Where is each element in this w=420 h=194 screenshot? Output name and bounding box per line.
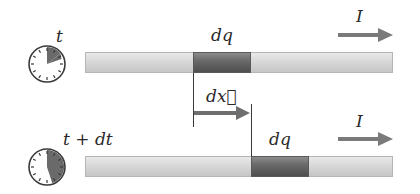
time-label-t: t: [56, 28, 63, 45]
charge-label-top: dq: [211, 27, 233, 44]
charge-label-bottom: dq: [269, 131, 291, 148]
charge-segment-top: [193, 52, 251, 73]
displacement-end-line: [251, 104, 252, 156]
clock-icon: [27, 44, 67, 84]
current-label-bottom: I: [356, 113, 363, 130]
clock-icon: [27, 147, 67, 187]
charge-segment-bottom: [251, 156, 309, 177]
current-arrow-bottom-icon: [338, 132, 394, 146]
current-arrow-top-icon: [338, 28, 394, 42]
charge-flow-diagram: t dq I: [0, 0, 420, 194]
current-label-top: I: [356, 8, 363, 25]
time-label-t-plus-dt: t + dt: [63, 131, 113, 148]
displacement-arrow-icon: [194, 106, 251, 120]
wire-bottom: [85, 156, 393, 177]
displacement-label: dx⃗: [206, 88, 237, 105]
